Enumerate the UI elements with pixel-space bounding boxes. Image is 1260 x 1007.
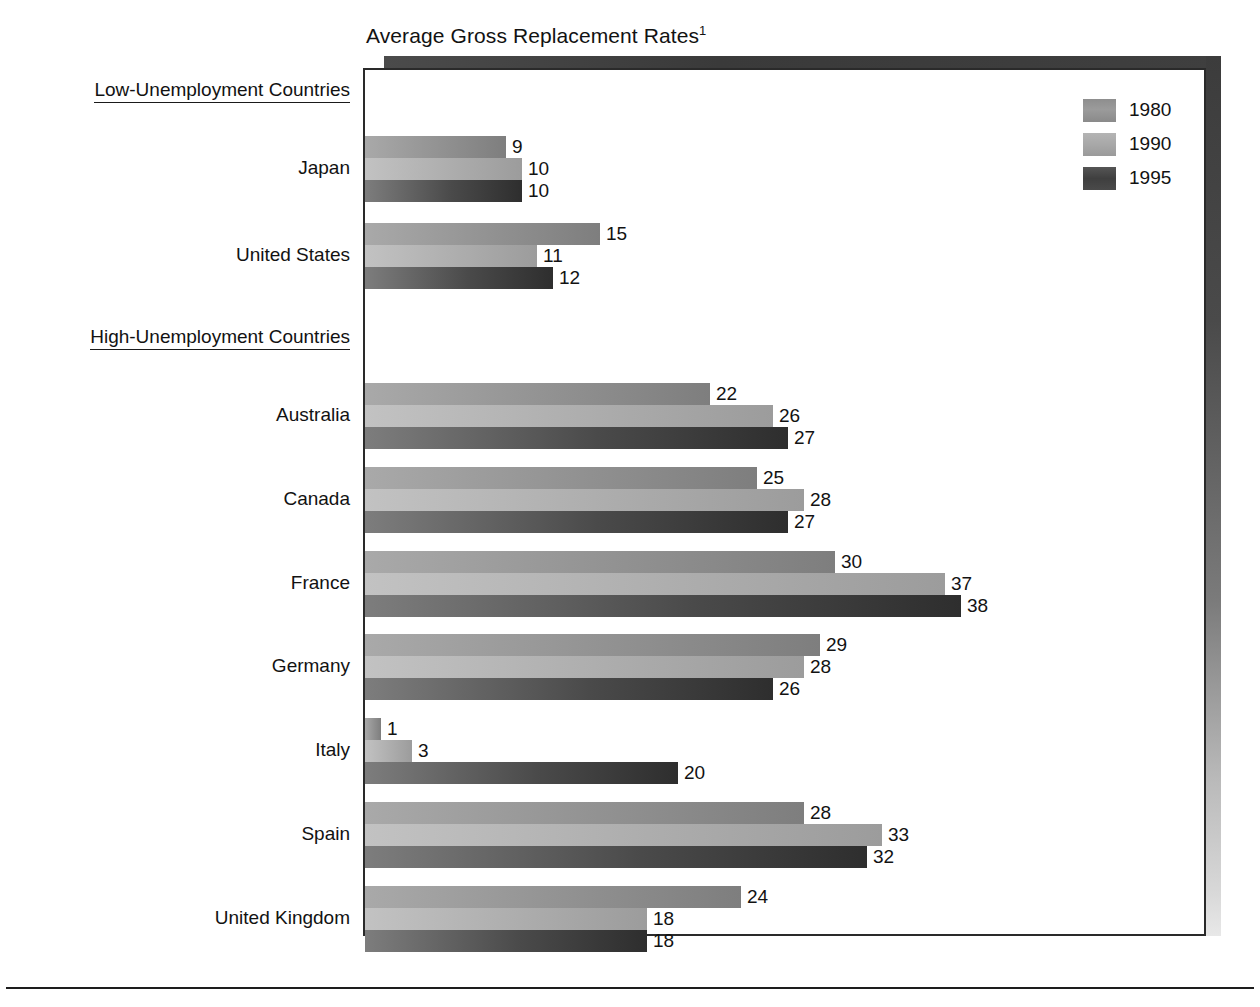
bar-italy-1980[interactable]: [365, 718, 381, 740]
bar-value-united-kingdom-1980: 24: [747, 886, 768, 908]
bar-value-united-kingdom-1990: 18: [653, 908, 674, 930]
bar-value-canada-1980: 25: [763, 467, 784, 489]
category-label-canada: Canada: [20, 488, 350, 510]
bar-value-united-kingdom-1995: 18: [653, 930, 674, 952]
bar-value-germany-1980: 29: [826, 634, 847, 656]
legend-swatch-icon-1995: [1083, 167, 1116, 190]
bar-value-united-states-1980: 15: [606, 223, 627, 245]
bar-italy-1990[interactable]: [365, 740, 412, 762]
bar-united-kingdom-1980[interactable]: [365, 886, 741, 908]
bar-spain-1995[interactable]: [365, 846, 867, 868]
group-heading-high-unemployment-text: High-Unemployment Countries: [90, 326, 350, 350]
bar-united-states-1995[interactable]: [365, 267, 553, 289]
bar-value-australia-1990: 26: [779, 405, 800, 427]
bar-united-states-1980[interactable]: [365, 223, 600, 245]
bar-value-france-1980: 30: [841, 551, 862, 573]
figure-container: Average Gross Replacement Rates1 1980 19…: [0, 0, 1260, 1007]
legend-swatch-icon-1980: [1083, 99, 1116, 122]
legend-label-1995: 1995: [1129, 167, 1171, 189]
bar-value-italy-1990: 3: [418, 740, 429, 762]
bar-value-japan-1990: 10: [528, 158, 549, 180]
category-label-spain: Spain: [20, 823, 350, 845]
bar-united-states-1990[interactable]: [365, 245, 537, 267]
bar-value-france-1990: 37: [951, 573, 972, 595]
bar-australia-1995[interactable]: [365, 427, 788, 449]
bar-value-france-1995: 38: [967, 595, 988, 617]
bar-united-kingdom-1995[interactable]: [365, 930, 647, 952]
bar-value-united-states-1990: 11: [543, 245, 563, 267]
bar-value-australia-1995: 27: [794, 427, 815, 449]
chart-title-text: Average Gross Replacement Rates: [366, 24, 699, 47]
bar-value-spain-1990: 33: [888, 824, 909, 846]
bar-value-canada-1995: 27: [794, 511, 815, 533]
legend-item-1980[interactable]: 1980: [1083, 93, 1193, 127]
bar-canada-1980[interactable]: [365, 467, 757, 489]
bar-japan-1995[interactable]: [365, 180, 522, 202]
legend-label-1990: 1990: [1129, 133, 1171, 155]
bar-spain-1990[interactable]: [365, 824, 882, 846]
category-label-united-kingdom: United Kingdom: [20, 907, 350, 929]
page-bottom-rule: [6, 987, 1254, 989]
legend-item-1990[interactable]: 1990: [1083, 127, 1193, 161]
category-label-australia: Australia: [20, 404, 350, 426]
bar-value-united-states-1995: 12: [559, 267, 580, 289]
category-label-japan: Japan: [20, 157, 350, 179]
bar-canada-1995[interactable]: [365, 511, 788, 533]
bar-value-australia-1980: 22: [716, 383, 737, 405]
bar-germany-1995[interactable]: [365, 678, 773, 700]
bar-value-spain-1995: 32: [873, 846, 894, 868]
bar-france-1995[interactable]: [365, 595, 961, 617]
bar-united-kingdom-1990[interactable]: [365, 908, 647, 930]
category-label-italy: Italy: [20, 739, 350, 761]
group-heading-low-unemployment: Low-Unemployment Countries: [20, 79, 350, 101]
legend-item-1995[interactable]: 1995: [1083, 161, 1193, 195]
category-label-united-states: United States: [20, 244, 350, 266]
bar-value-italy-1980: 1: [387, 718, 398, 740]
bar-value-japan-1995: 10: [528, 180, 549, 202]
bar-japan-1990[interactable]: [365, 158, 522, 180]
bar-france-1980[interactable]: [365, 551, 835, 573]
plot-backdrop-right-edge: [1206, 56, 1221, 936]
bar-australia-1990[interactable]: [365, 405, 773, 427]
category-label-france: France: [20, 572, 350, 594]
bar-france-1990[interactable]: [365, 573, 945, 595]
bar-value-germany-1990: 28: [810, 656, 831, 678]
group-heading-high-unemployment: High-Unemployment Countries: [20, 326, 350, 348]
chart-title: Average Gross Replacement Rates1: [366, 24, 706, 48]
bar-spain-1980[interactable]: [365, 802, 804, 824]
group-heading-low-unemployment-text: Low-Unemployment Countries: [94, 79, 350, 103]
bar-value-canada-1990: 28: [810, 489, 831, 511]
bar-value-italy-1995: 20: [684, 762, 705, 784]
bar-germany-1990[interactable]: [365, 656, 804, 678]
legend-label-1980: 1980: [1129, 99, 1171, 121]
bar-australia-1980[interactable]: [365, 383, 710, 405]
bar-japan-1980[interactable]: [365, 136, 506, 158]
legend: 1980 1990 1995: [1083, 93, 1193, 195]
legend-swatch-icon-1990: [1083, 133, 1116, 156]
bar-value-spain-1980: 28: [810, 802, 831, 824]
category-label-germany: Germany: [20, 655, 350, 677]
bar-italy-1995[interactable]: [365, 762, 678, 784]
chart-title-footnote-marker: 1: [699, 23, 706, 38]
bar-value-japan-1980: 9: [512, 136, 523, 158]
bar-germany-1980[interactable]: [365, 634, 820, 656]
bar-value-germany-1995: 26: [779, 678, 800, 700]
bar-canada-1990[interactable]: [365, 489, 804, 511]
